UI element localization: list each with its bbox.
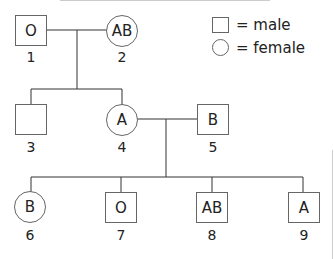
blood-type: AB <box>202 199 223 217</box>
blood-type: B <box>25 198 35 216</box>
legend-male-label: = male <box>236 16 291 34</box>
blood-type: O <box>25 22 37 40</box>
legend-female-circle-icon <box>213 40 229 56</box>
individual-number: 7 <box>117 227 126 243</box>
individual-number: 1 <box>27 49 36 65</box>
individual-6-female: B 6 <box>15 192 46 244</box>
blood-type: B <box>208 111 218 129</box>
blood-type: A <box>117 111 128 129</box>
individual-7-male: O 7 <box>106 193 137 244</box>
blood-type: O <box>115 199 127 217</box>
individual-number: 3 <box>27 139 36 155</box>
individual-4-female: A 4 <box>107 105 138 156</box>
individual-number: 2 <box>118 49 127 65</box>
individual-number: 6 <box>26 227 35 243</box>
individual-9-male: A 9 <box>289 193 320 244</box>
legend: = male = female <box>213 16 306 57</box>
individual-5-male: B 5 <box>198 105 229 156</box>
individual-3-male: 3 <box>16 105 47 156</box>
individual-number: 9 <box>300 227 309 243</box>
individual-number: 8 <box>208 227 217 243</box>
legend-female-label: = female <box>236 39 305 57</box>
individual-2-female: AB 2 <box>107 16 138 66</box>
blood-type: A <box>299 199 310 217</box>
male-square-icon <box>16 105 47 135</box>
individual-1-male: O 1 <box>16 16 47 66</box>
legend-male-square-icon <box>213 18 229 33</box>
individual-number: 4 <box>118 139 127 155</box>
individual-number: 5 <box>209 139 218 155</box>
pedigree-chart: O 1 AB 2 3 A 4 B 5 B 6 O 7 AB 8 <box>0 0 334 259</box>
blood-type: AB <box>112 22 133 40</box>
individual-8-male: AB 8 <box>197 193 228 244</box>
